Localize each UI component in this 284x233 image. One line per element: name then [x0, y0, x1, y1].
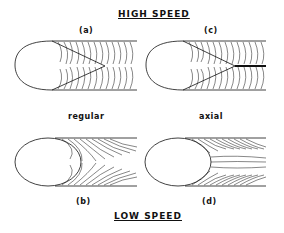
panel-b-diagram	[15, 138, 137, 186]
panel-a-diagram	[15, 41, 137, 90]
panel-c-diagram	[146, 41, 266, 90]
panel-d-diagram	[145, 138, 266, 186]
diagram-canvas	[0, 0, 284, 233]
